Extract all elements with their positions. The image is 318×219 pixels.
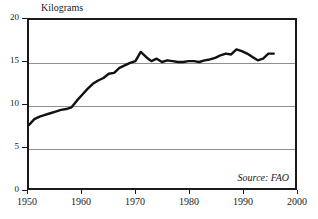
y-tick-mark-15 bbox=[22, 61, 27, 62]
y-tick-mark-20 bbox=[22, 18, 27, 19]
x-tick-mark-1990 bbox=[243, 190, 244, 194]
y-tick-label-0: 0 bbox=[0, 185, 19, 194]
y-tick-mark-10 bbox=[22, 104, 27, 105]
x-tick-label-1970: 1970 bbox=[115, 196, 155, 207]
axis-ticks-layer: 05101520195019601970198019902000 bbox=[0, 0, 318, 219]
x-tick-label-1950: 1950 bbox=[7, 196, 47, 207]
x-tick-mark-1960 bbox=[81, 190, 82, 194]
chart-page: Kilograms Source: FAO 051015201950196019… bbox=[0, 0, 318, 219]
x-tick-label-1990: 1990 bbox=[223, 196, 263, 207]
x-tick-label-1980: 1980 bbox=[169, 196, 209, 207]
x-tick-mark-1970 bbox=[135, 190, 136, 194]
x-tick-mark-1980 bbox=[189, 190, 190, 194]
y-tick-label-5: 5 bbox=[0, 142, 19, 151]
y-tick-mark-5 bbox=[22, 147, 27, 148]
x-tick-mark-1950 bbox=[27, 190, 28, 194]
x-tick-label-1960: 1960 bbox=[61, 196, 101, 207]
y-tick-label-15: 15 bbox=[0, 56, 19, 65]
x-tick-label-2000: 2000 bbox=[277, 196, 317, 207]
y-tick-label-10: 10 bbox=[0, 99, 19, 108]
y-tick-label-20: 20 bbox=[0, 13, 19, 22]
x-tick-mark-2000 bbox=[297, 190, 298, 194]
